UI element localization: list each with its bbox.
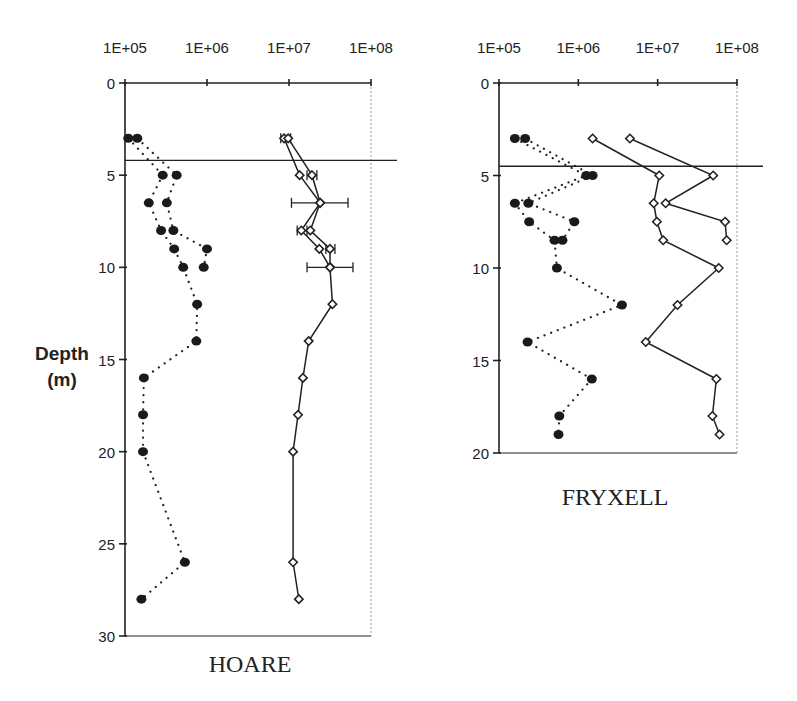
open-diamond-marker (294, 411, 302, 419)
filled-circle-marker (617, 301, 627, 310)
open-diamond-marker (626, 134, 634, 142)
open-diamond-marker (712, 375, 720, 383)
open-diamond-marker (721, 218, 729, 226)
filled-circle-marker (587, 375, 597, 384)
filled-circle-marker (123, 134, 133, 143)
open-diamond-marker (653, 218, 661, 226)
y-tick-label: 0 (107, 75, 115, 92)
filled-circle-marker (138, 410, 148, 419)
filled-circle-marker (191, 337, 201, 346)
x-tick-label: 1E+07 (636, 39, 680, 56)
chart-title: FRYXELL (562, 484, 669, 510)
filled-circle-marker (139, 373, 149, 382)
filled-circle-marker (510, 134, 520, 143)
series-line (515, 139, 622, 435)
open-diamond-marker (295, 595, 303, 603)
x-tick-label: 1E+06 (556, 39, 600, 56)
filled-circle-marker (138, 447, 148, 456)
open-diamond-marker (299, 374, 307, 382)
open-diamond-marker (289, 447, 297, 455)
filled-circle-marker (524, 217, 534, 226)
chart-fryxell: 1E+051E+061E+071E+0805101520FRYXELL (472, 39, 763, 510)
y-axis-label-line1: Depth (35, 343, 89, 364)
open-diamond-marker (659, 236, 667, 244)
y-tick-label: 10 (472, 260, 489, 277)
open-diamond-marker (709, 171, 717, 179)
y-tick-label: 20 (472, 445, 489, 462)
x-tick-label: 1E+05 (103, 39, 147, 56)
y-tick-label: 25 (98, 536, 115, 553)
x-tick-label: 1E+06 (185, 39, 229, 56)
filled-circle-marker (168, 226, 178, 235)
filled-circle-marker (523, 338, 533, 347)
filled-circle-marker (588, 171, 598, 180)
open-diamond-marker (289, 558, 297, 566)
open-diamond-marker (328, 300, 336, 308)
open-diamond-marker (588, 134, 596, 142)
x-tick-label: 1E+08 (715, 39, 759, 56)
chart-title: HOARE (209, 651, 292, 677)
open-diamond-marker (715, 430, 723, 438)
open-diamond-marker (661, 199, 669, 207)
filled-circle-marker (510, 199, 520, 208)
filled-circle-marker (144, 198, 154, 207)
y-tick-label: 30 (98, 628, 115, 645)
filled-circle-marker (199, 263, 209, 272)
chart-hoare: 1E+051E+061E+071E+08051015202530HOARE (98, 39, 397, 677)
figure: 1E+051E+061E+071E+08051015202530HOARE 1E… (0, 0, 797, 701)
filled-circle-marker (162, 198, 172, 207)
filled-circle-marker (132, 134, 142, 143)
filled-circle-marker (180, 558, 190, 567)
filled-circle-marker (158, 171, 168, 180)
filled-circle-marker (552, 264, 562, 273)
filled-circle-marker (172, 171, 182, 180)
y-tick-label: 5 (107, 167, 115, 184)
y-axis-label-line2: (m) (47, 369, 77, 390)
y-tick-label: 15 (98, 352, 115, 369)
x-tick-label: 1E+07 (267, 39, 311, 56)
y-tick-label: 5 (481, 168, 489, 185)
filled-circle-marker (156, 226, 166, 235)
filled-circle-marker (202, 244, 212, 253)
filled-circle-marker (520, 134, 530, 143)
series-line (525, 139, 592, 241)
open-diamond-marker (708, 412, 716, 420)
open-diamond-marker (308, 171, 316, 179)
series-line (128, 138, 197, 599)
filled-circle-marker (569, 217, 579, 226)
filled-circle-marker (523, 199, 533, 208)
open-diamond-marker (650, 199, 658, 207)
open-diamond-marker (655, 171, 663, 179)
x-tick-label: 1E+05 (477, 39, 521, 56)
y-tick-label: 0 (481, 75, 489, 92)
y-tick-label: 15 (472, 353, 489, 370)
filled-circle-marker (554, 430, 564, 439)
filled-circle-marker (178, 263, 188, 272)
filled-circle-marker (554, 412, 564, 421)
open-diamond-marker (326, 263, 334, 271)
series-line (630, 139, 727, 241)
y-tick-label: 10 (98, 259, 115, 276)
filled-circle-marker (192, 300, 202, 309)
filled-circle-marker (136, 595, 146, 604)
filled-circle-marker (169, 244, 179, 253)
filled-circle-marker (557, 236, 567, 245)
open-diamond-marker (304, 337, 312, 345)
x-tick-label: 1E+08 (349, 39, 393, 56)
open-diamond-marker (722, 236, 730, 244)
y-tick-label: 20 (98, 444, 115, 461)
